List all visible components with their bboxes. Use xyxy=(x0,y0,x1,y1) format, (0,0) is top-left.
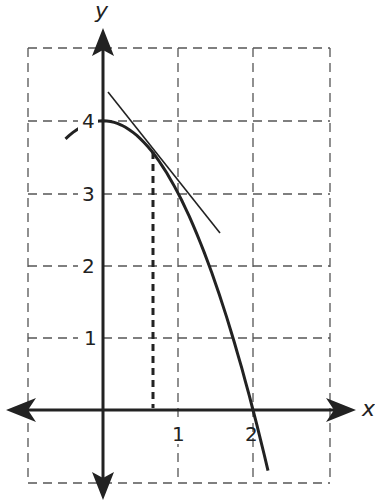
tangent-line xyxy=(108,92,220,233)
x-axis xyxy=(6,398,356,422)
x-tick-2: 2 xyxy=(245,422,258,446)
y-tick-2: 2 xyxy=(82,254,95,278)
y-axis-label: y xyxy=(94,0,109,23)
y-tick-4: 4 xyxy=(82,109,95,133)
y-tick-3: 3 xyxy=(82,182,95,206)
x-tick-1: 1 xyxy=(172,422,185,446)
grid xyxy=(28,48,330,483)
graph: 1 2 4 3 2 1 y x xyxy=(0,0,375,501)
y-tick-1: 1 xyxy=(84,326,97,350)
x-axis-label: x xyxy=(361,396,375,421)
